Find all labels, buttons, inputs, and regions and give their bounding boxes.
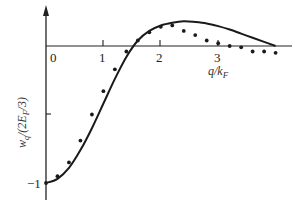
data-point bbox=[274, 51, 278, 55]
data-point bbox=[170, 24, 174, 28]
data-point bbox=[205, 39, 209, 43]
data-point bbox=[44, 181, 48, 185]
x-tick-label-2: 2 bbox=[156, 50, 163, 65]
data-point bbox=[159, 25, 163, 29]
data-point bbox=[251, 50, 255, 54]
data-point bbox=[56, 174, 60, 178]
data-point bbox=[262, 50, 266, 54]
data-point bbox=[136, 39, 140, 43]
y-axis-arrow-icon bbox=[43, 5, 49, 16]
data-point bbox=[239, 45, 243, 49]
data-point bbox=[90, 113, 94, 117]
x-tick-label-0: 0 bbox=[50, 50, 57, 65]
data-point bbox=[102, 89, 106, 93]
data-point bbox=[113, 67, 117, 71]
data-point bbox=[79, 139, 83, 143]
chart-container: 0 1 2 3 −1 q/kF wq/(2EF/3) bbox=[0, 0, 295, 212]
data-point bbox=[182, 29, 186, 33]
plot-area: 0 1 2 3 −1 q/kF wq/(2EF/3) bbox=[0, 0, 295, 212]
data-point bbox=[67, 161, 71, 165]
data-point bbox=[124, 50, 128, 54]
data-point bbox=[216, 41, 220, 45]
x-tick-label-3: 3 bbox=[214, 50, 221, 65]
y-tick-label-minus1: −1 bbox=[27, 176, 41, 191]
y-axis-label: wq/(2EF/3) bbox=[15, 97, 31, 148]
x-axis-label: q/kF bbox=[208, 64, 229, 80]
x-tick-label-1: 1 bbox=[99, 50, 106, 65]
data-point bbox=[228, 44, 232, 48]
data-point bbox=[193, 33, 197, 37]
data-point bbox=[147, 30, 151, 34]
